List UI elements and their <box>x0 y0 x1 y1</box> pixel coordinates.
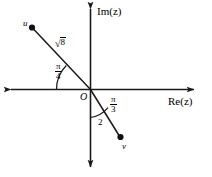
sqrt-glyph: √8 <box>55 38 66 49</box>
vector-u-magnitude-label: √8 <box>55 38 66 49</box>
vector-u-point-label: u <box>23 19 28 28</box>
real-axis-label: Re(z) <box>168 96 192 107</box>
angle-label-pi-over-3: π 3 <box>110 95 117 115</box>
imaginary-axis-label: Im(z) <box>97 6 121 17</box>
radicand: 8 <box>60 37 67 47</box>
angle-pi-over-4-numerator: π <box>55 62 62 71</box>
vector-u-endpoint <box>29 24 35 30</box>
angle-pi-over-3-denominator: 3 <box>110 104 117 114</box>
diagram-canvas <box>0 0 212 177</box>
vector-v-point-label: v <box>122 142 126 151</box>
complex-plane-diagram: Im(z) Re(z) O u v √8 2 π 4 π 3 <box>0 0 212 177</box>
angle-label-pi-over-4: π 4 <box>55 62 62 82</box>
angle-pi-over-4-denominator: 4 <box>55 71 62 81</box>
vector-v-magnitude-label: 2 <box>98 118 103 127</box>
vector-v-endpoint <box>117 134 123 140</box>
angle-pi-over-3-numerator: π <box>110 95 117 104</box>
origin-label: O <box>80 92 87 102</box>
